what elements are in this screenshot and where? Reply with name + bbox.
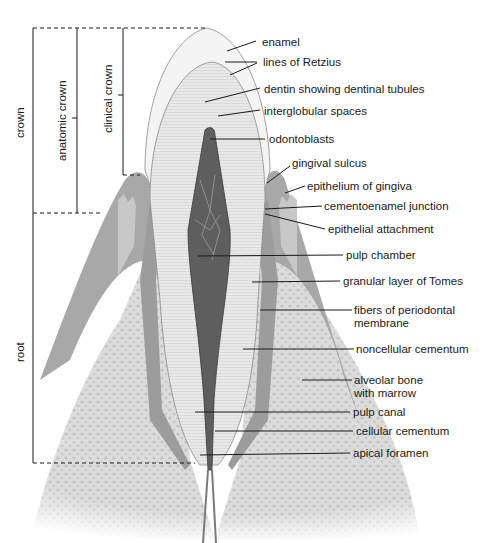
anatomic-crown-label: anatomic crown bbox=[56, 80, 68, 161]
label-pulp-canal: pulp canal bbox=[353, 406, 405, 419]
label-granular-layer-of-tomes: granular layer of Tomes bbox=[343, 275, 463, 288]
label-apical-foramen: apical foramen bbox=[353, 447, 428, 460]
label-fibers-of-periodontal-membrane: fibers of periodontal membrane bbox=[354, 304, 455, 330]
label-cellular-cementum: cellular cementum bbox=[356, 425, 449, 438]
label-alveolar-line1: alveolar bone bbox=[354, 374, 423, 386]
root-label: root bbox=[14, 342, 26, 362]
label-epithelial-attachment: epithelial attachment bbox=[328, 223, 433, 236]
label-gingival-sulcus: gingival sulcus bbox=[292, 157, 367, 170]
label-pulp-chamber: pulp chamber bbox=[346, 249, 416, 262]
label-fibers-line1: fibers of periodontal bbox=[354, 304, 455, 316]
label-fibers-line2: membrane bbox=[354, 317, 409, 329]
label-interglobular-spaces: interglobular spaces bbox=[264, 105, 367, 118]
label-lines-of-retzius: lines of Retzius bbox=[263, 56, 341, 69]
label-cementoenamel-junction: cementoenamel junction bbox=[324, 200, 449, 213]
label-odontoblasts: odontoblasts bbox=[269, 133, 334, 146]
label-alveolar-bone: alveolar bone with marrow bbox=[354, 374, 423, 400]
label-noncellular-cementum: noncellular cementum bbox=[356, 343, 469, 356]
label-epithelium-of-gingiva: epithelium of gingiva bbox=[307, 180, 412, 193]
label-alveolar-line2: with marrow bbox=[354, 387, 416, 399]
tooth-diagram bbox=[0, 0, 489, 543]
label-dentin: dentin showing dentinal tubules bbox=[264, 83, 424, 96]
crown-label: crown bbox=[14, 107, 26, 138]
clinical-crown-label: clinical crown bbox=[102, 65, 114, 133]
label-enamel: enamel bbox=[262, 36, 300, 49]
